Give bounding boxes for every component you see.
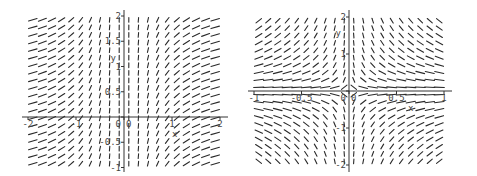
slope-segment (202, 56, 210, 59)
slope-segment (285, 159, 289, 164)
slope-segment (436, 130, 443, 133)
slope-field-left-canvas: -2-101221.510.50-0.5-1xy (0, 0, 240, 176)
slope-segment (48, 56, 55, 59)
slope-segment (333, 63, 336, 68)
slope-segment (38, 64, 46, 67)
slope-segment (353, 78, 355, 83)
slope-segment (283, 79, 292, 81)
x-tick-label: -0.5 (291, 93, 313, 103)
slope-segment (89, 108, 91, 113)
slope-segment (183, 25, 189, 29)
slope-segment (99, 63, 100, 68)
slope-segment (183, 71, 189, 75)
slope-segment (165, 17, 169, 22)
slope-segment (436, 41, 443, 45)
slope-segment (390, 18, 393, 23)
slope-segment (434, 79, 444, 80)
slope-segment (48, 86, 55, 89)
slope-segment (211, 41, 219, 43)
slope-segment (89, 40, 91, 45)
slope-segment (165, 33, 169, 38)
slope-segment (79, 101, 83, 106)
slope-segment (427, 19, 432, 23)
slope-segment (294, 130, 299, 134)
slope-segment (156, 123, 158, 128)
slope-segment (48, 18, 55, 21)
slope-segment (69, 78, 74, 82)
slope-segment (165, 108, 169, 113)
slope-segment (58, 139, 64, 143)
slope-segment (314, 122, 318, 126)
slope-segment (29, 109, 37, 111)
slope-segment (369, 78, 376, 81)
slope-segment (312, 101, 320, 104)
slope-segment (256, 26, 262, 30)
slope-segment (427, 33, 433, 37)
slope-segment (183, 33, 189, 37)
slope-segment (174, 25, 179, 29)
slope-segment (363, 33, 364, 38)
slope-segment (264, 71, 273, 73)
slope-segment (305, 18, 308, 23)
slope-segment (79, 86, 83, 91)
slope-segment (211, 155, 219, 157)
slope-segment (436, 49, 443, 52)
x-tick-label: -2 (23, 119, 34, 129)
slope-segment (398, 63, 405, 66)
slope-segment (266, 159, 271, 163)
slope-segment (202, 140, 210, 143)
slope-segment (29, 155, 37, 157)
slope-segment (147, 78, 148, 83)
slope-segment (390, 33, 394, 38)
slope-segment (407, 122, 414, 126)
slope-segment (311, 87, 321, 88)
slope-segment (183, 63, 189, 67)
slope-segment (266, 26, 271, 30)
slope-segment (58, 63, 64, 67)
slope-segment (183, 101, 189, 105)
slope-segment (426, 130, 433, 134)
slope-segment (427, 152, 432, 156)
slope-segment (254, 109, 263, 111)
slope-segment (377, 94, 387, 95)
slope-segment (165, 48, 169, 53)
slope-field-right: -1-0.500.51210-1-2xy (240, 0, 477, 176)
slope-segment (436, 34, 442, 38)
slope-segment (273, 79, 282, 80)
slope-segment (38, 140, 46, 143)
slope-segment (353, 107, 354, 112)
slope-segment (48, 139, 55, 142)
slope-segment (397, 79, 406, 81)
slope-segment (211, 19, 219, 21)
slope-segment (99, 17, 100, 22)
slope-segment (192, 109, 199, 112)
slope-segment (324, 33, 326, 38)
slope-segment (362, 48, 364, 53)
slope-segment (389, 56, 394, 60)
slope-segment (99, 40, 100, 45)
slope-segment (265, 144, 271, 148)
slope-segment (156, 93, 158, 98)
slope-segment (79, 48, 83, 53)
slope-segment (314, 129, 318, 134)
slope-segment (174, 109, 179, 113)
slope-segment (79, 17, 83, 22)
slope-segment (427, 144, 433, 148)
slope-segment (58, 154, 64, 158)
slope-segment (381, 152, 383, 157)
slope-segment (416, 108, 425, 110)
slope-segment (202, 26, 210, 29)
slope-segment (58, 101, 64, 105)
slope-segment (79, 40, 83, 45)
slope-segment (211, 79, 219, 81)
slope-segment (147, 25, 148, 30)
slope-segment (406, 87, 416, 88)
slope-segment (361, 107, 365, 112)
slope-segment (99, 123, 100, 128)
slope-segment (89, 63, 91, 68)
slope-segment (396, 87, 406, 88)
slope-segment (397, 71, 405, 74)
slope-segment (79, 78, 83, 83)
slope-segment (285, 26, 289, 31)
slope-segment (264, 64, 272, 67)
